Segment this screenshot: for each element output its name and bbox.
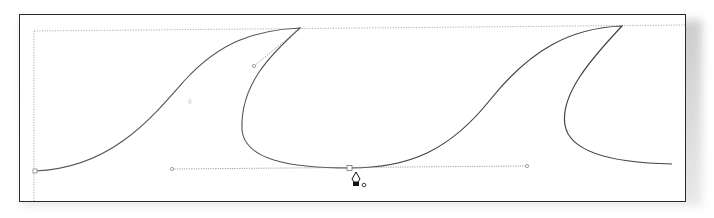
wave-path-1[interactable] <box>35 28 350 171</box>
direction-handle-right-icon[interactable] <box>525 164 528 167</box>
direction-handles[interactable] <box>172 30 527 169</box>
direction-handle-top-icon[interactable] <box>252 64 255 67</box>
pen-cursor-icon <box>352 172 366 187</box>
center-point-icon: ◊ <box>188 98 192 105</box>
direction-handle-left-icon[interactable] <box>170 167 173 170</box>
anchor-point-icon[interactable] <box>347 166 352 171</box>
vector-canvas[interactable]: ◊ <box>0 0 714 218</box>
selection-bounds <box>34 25 686 201</box>
wave-path-2[interactable] <box>350 26 672 168</box>
anchor-point-left-icon[interactable] <box>33 169 37 173</box>
